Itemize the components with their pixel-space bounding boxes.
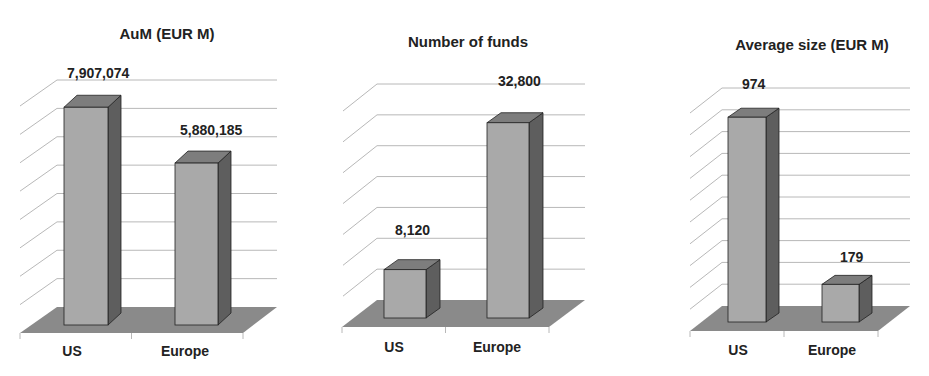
chart-bars [728,108,872,322]
category-label-europe: Europe [161,343,209,359]
bar-europe [175,151,231,325]
chart-floor [690,306,910,337]
bar-value-label-europe: 5,880,185 [180,122,242,138]
chart-aum-svg: AuM (EUR M) 7,907,074 5,880,185 US Europ… [0,0,310,376]
chart-grid [343,84,585,296]
chart-grid [690,88,910,309]
chart-floor [20,307,277,339]
category-label-europe: Europe [473,339,521,355]
chart-aum: AuM (EUR M) 7,907,074 5,880,185 US Europ… [0,0,310,376]
chart-number-of-funds: Number of funds 8,120 32,800 US Europe [310,0,620,376]
bar-us [384,260,440,318]
category-label-us: US [384,339,403,355]
bar-us [64,95,121,325]
bar-value-label-us: 8,120 [395,222,430,238]
chart-bars [384,113,543,318]
bar-europe [487,113,543,318]
category-label-europe: Europe [808,342,856,358]
chart-average-size-svg: Average size (EUR M) 974 179 US Europe [620,0,929,376]
bar-us [728,108,779,322]
category-label-us: US [728,342,747,358]
category-label-us: US [62,343,81,359]
bar-value-label-europe: 32,800 [498,73,541,89]
bar-value-label-us: 7,907,074 [67,65,129,81]
chart-floor [342,300,585,333]
bar-value-label-europe: 179 [840,249,864,265]
bar-value-label-us: 974 [742,76,766,92]
bar-europe [822,275,872,322]
chart-title: Average size (EUR M) [735,36,889,53]
chart-title: AuM (EUR M) [120,25,215,42]
chart-title: Number of funds [408,33,528,50]
chart-number-of-funds-svg: Number of funds 8,120 32,800 US Europe [310,0,620,376]
chart-grid [20,80,277,305]
chart-average-size: Average size (EUR M) 974 179 US Europe [620,0,929,376]
